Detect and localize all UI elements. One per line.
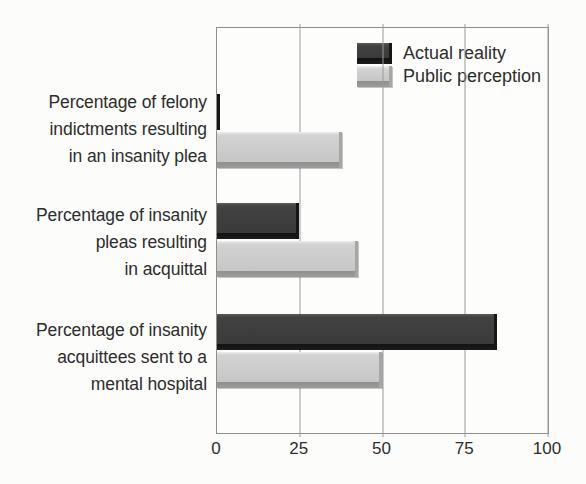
bar-chart-figure: Percentage of felony indictments resulti…: [0, 0, 586, 484]
bar-actual-reality-group-3: [217, 314, 497, 350]
x-tick-label-50: 50: [372, 439, 391, 459]
category-label-3: Percentage of insanity acquittees sent t…: [0, 317, 207, 398]
bar-actual-reality-group-1: [217, 94, 220, 130]
bar-public-perception-group-2: [217, 241, 358, 277]
gridline-100: [548, 24, 549, 437]
legend-item-public-perception: Public perception: [357, 66, 541, 87]
gridline-50: [382, 24, 383, 437]
legend-swatch-actual-reality-icon: [357, 43, 392, 64]
category-labels: Percentage of felony indictments resulti…: [0, 0, 207, 484]
bar-actual-reality-group-2: [217, 203, 299, 239]
x-tick-label-75: 75: [455, 439, 474, 459]
x-tick-label-25: 25: [289, 439, 308, 459]
plot-area: Actual reality Public perception: [216, 27, 549, 434]
x-axis-labels: 0255075100: [216, 439, 547, 463]
x-tick-label-0: 0: [211, 439, 220, 459]
legend: Actual reality Public perception: [357, 43, 541, 87]
bar-public-perception-group-3: [217, 352, 382, 388]
bar-public-perception-group-1: [217, 132, 342, 168]
category-label-2: Percentage of insanity pleas resulting i…: [0, 202, 207, 283]
gridline-75: [465, 24, 466, 437]
legend-label-public-perception: Public perception: [403, 66, 541, 87]
legend-label-actual-reality: Actual reality: [403, 43, 506, 64]
legend-swatch-public-perception-icon: [357, 66, 392, 87]
category-label-1: Percentage of felony indictments resulti…: [0, 89, 207, 170]
legend-item-actual-reality: Actual reality: [357, 43, 541, 64]
x-tick-label-100: 100: [533, 439, 561, 459]
